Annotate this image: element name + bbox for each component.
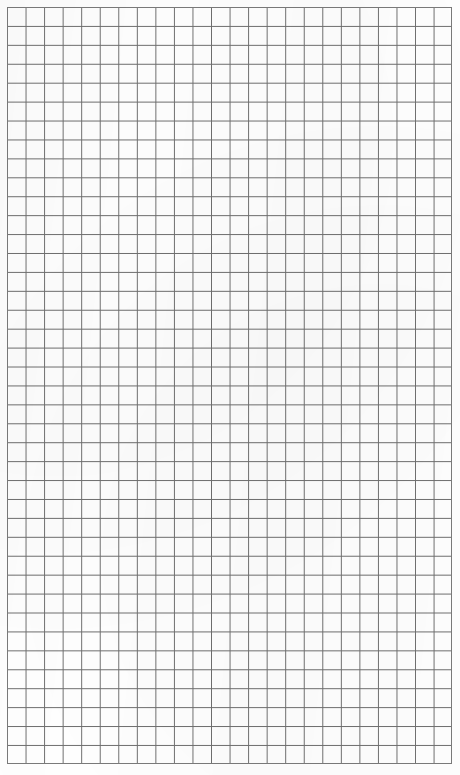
grid-sheet <box>7 7 452 764</box>
grid-paper-page <box>0 0 460 775</box>
